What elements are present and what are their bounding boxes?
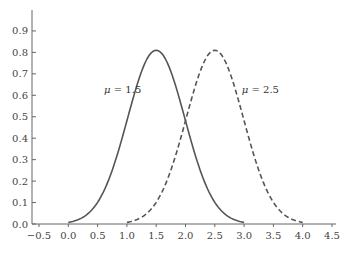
y-tick-label: 0.8 — [12, 47, 28, 58]
x-tick-label: 1.0 — [119, 230, 135, 241]
series-annotations: μ = 1.5μ = 2.5 — [104, 84, 279, 95]
y-tick-label: 0.7 — [12, 68, 28, 79]
x-tick-label: 0.5 — [90, 230, 106, 241]
x-axis: −0.50.00.51.01.52.02.53.03.54.04.5 — [27, 224, 340, 241]
y-tick-label: 0.9 — [12, 25, 28, 36]
x-tick-label: 4.5 — [324, 230, 340, 241]
x-tick-label: 2.0 — [178, 230, 194, 241]
y-tick-label: 0.4 — [12, 133, 28, 144]
y-tick-label: 0.2 — [12, 176, 28, 187]
x-tick-label: −0.5 — [27, 230, 51, 241]
x-tick-label: 3.0 — [236, 230, 252, 241]
series-label: μ = 2.5 — [242, 84, 279, 95]
y-tick-label: 0.0 — [12, 219, 28, 230]
normal-distribution-chart: 0.00.10.20.30.40.50.60.70.80.9 −0.50.00.… — [0, 0, 352, 253]
series-curve-mu-1-5 — [68, 50, 244, 222]
y-tick-label: 0.1 — [12, 197, 28, 208]
x-tick-label: 4.0 — [295, 230, 311, 241]
series-label: μ = 1.5 — [104, 84, 141, 95]
series-curve-mu-2-5 — [127, 50, 303, 222]
x-tick-label: 3.5 — [265, 230, 281, 241]
y-tick-label: 0.3 — [12, 154, 28, 165]
y-tick-label: 0.6 — [12, 90, 28, 101]
plot-area — [68, 50, 302, 222]
x-tick-label: 0.0 — [60, 230, 76, 241]
y-axis: 0.00.10.20.30.40.50.60.70.80.9 — [12, 10, 36, 230]
x-tick-label: 2.5 — [207, 230, 223, 241]
y-tick-label: 0.5 — [12, 111, 28, 122]
x-tick-label: 1.5 — [148, 230, 164, 241]
